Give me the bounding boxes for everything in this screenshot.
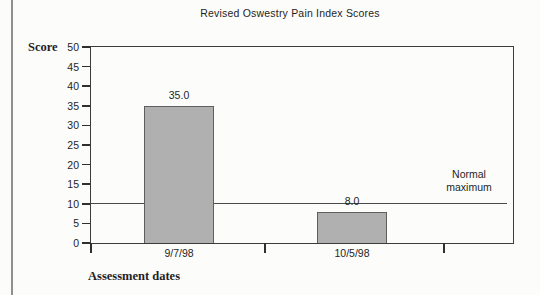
x-category-label: 9/7/98 — [139, 247, 219, 259]
y-tick-label: 20 — [47, 158, 79, 172]
normal-maximum-label: Normal maximum — [423, 168, 515, 193]
y-tick — [82, 46, 90, 48]
chart-title: Revised Oswestry Pain Index Scores — [80, 7, 500, 19]
y-tick — [82, 105, 90, 107]
y-tick-label: 0 — [47, 236, 79, 250]
y-tick — [82, 144, 90, 146]
y-tick-label: 5 — [47, 216, 79, 230]
y-tick-label: 35 — [47, 99, 79, 113]
y-tick-label: 45 — [47, 60, 79, 74]
y-tick — [82, 125, 90, 127]
y-tick — [82, 66, 90, 68]
x-category-label: 10/5/98 — [312, 247, 392, 259]
y-tick-label: 25 — [47, 138, 79, 152]
bar-value-label: 35.0 — [139, 89, 219, 101]
x-tick — [264, 243, 266, 253]
y-tick — [82, 242, 90, 244]
bar — [144, 106, 214, 243]
y-tick-label: 50 — [47, 40, 79, 54]
y-tick-label: 10 — [47, 197, 79, 211]
x-tick — [443, 243, 445, 253]
page-edge-line — [11, 0, 13, 295]
y-tick-label: 15 — [47, 177, 79, 191]
scanned-chart-page: Revised Oswestry Pain Index Scores Score… — [0, 0, 540, 295]
y-tick — [82, 223, 90, 225]
y-tick — [82, 164, 90, 166]
y-tick-label: 40 — [47, 79, 79, 93]
bar — [317, 212, 387, 243]
x-axis-title: Assessment dates — [88, 269, 180, 284]
plot-area: Normal maximum 0510152025303540455035.09… — [90, 46, 514, 244]
y-tick — [82, 85, 90, 87]
y-tick-label: 30 — [47, 118, 79, 132]
y-tick — [82, 183, 90, 185]
x-tick — [90, 243, 92, 253]
y-tick — [82, 203, 90, 205]
bar-value-label: 8.0 — [312, 195, 392, 207]
